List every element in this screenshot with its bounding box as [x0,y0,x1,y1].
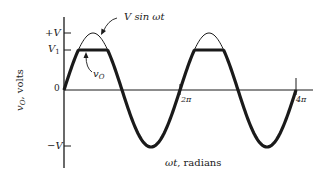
input-curve-label-text: V sin ωt [124,11,165,22]
y-tick-label-plus-v: +V [45,28,61,38]
y-axis-label: vO, volts [14,69,27,111]
input-label-arrowhead [101,29,106,36]
input-curve-label: V sin ωt [124,12,165,22]
x-axis-label-var: ωt [165,157,177,168]
y-axis-label-sub: O [19,99,27,105]
y-axis-label-var: v [14,105,25,111]
x-tick-label-2pi: 2π [181,96,191,104]
y-tick-label-zero: 0 [54,84,60,93]
y-tick-label-v1: V1 [48,44,60,56]
x-axis-label: ωt, radians [165,158,221,168]
x-tick-label-4pi: 4π [296,96,306,104]
output-label-leader [86,56,92,72]
output-label-arrowhead [84,52,89,58]
y-axis-label-rest: , volts [14,69,25,99]
input-label-leader [103,18,117,32]
y-tick-label-minus-v: −V [47,141,63,151]
output-curve-label-sub: O [99,73,105,81]
y-tick-v1-sub: 1 [55,48,59,56]
output-curve-label: vO [93,69,104,81]
output-clipped-curve [64,50,296,147]
x-axis-label-rest: , radians [177,157,221,168]
